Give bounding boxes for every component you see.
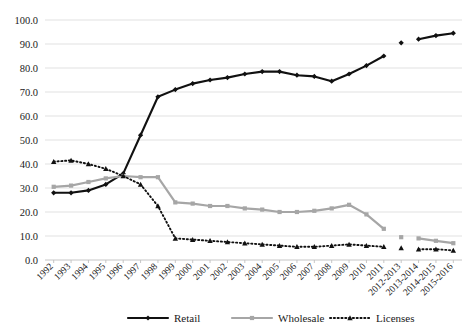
series-group [51,31,456,253]
data-point [155,203,160,208]
data-point [51,190,56,195]
x-axis-tick-label: 1997 [121,261,142,282]
data-point [86,188,91,193]
x-axis-tick-label: 2008 [313,261,334,282]
data-point [364,212,368,216]
x-axis-tick-label: 2004 [243,261,264,282]
data-point [451,241,455,245]
data-point [190,81,195,86]
series-licenses [51,158,456,253]
data-point [433,33,438,38]
data-point [243,206,247,210]
data-point [329,243,334,248]
data-point [399,40,404,45]
data-point [104,176,108,180]
series-line [54,56,384,193]
data-point [225,204,229,208]
data-point [434,239,438,243]
data-point [207,77,212,82]
x-axis-labels-group: 1992199319941995199619971998199920002001… [35,260,455,298]
data-point [294,244,299,249]
legend-label: Wholesale [278,312,325,324]
data-point [260,208,264,212]
x-axis-tick-label: 1996 [104,261,125,282]
x-axis-tick-label: 2002 [208,261,229,282]
data-point [294,73,299,78]
x-axis-tick-label: 1998 [139,261,160,282]
y-axis-tick-label: 80.0 [20,63,38,74]
x-axis-tick-label: 1999 [156,261,177,282]
chart-canvas: 0.010.020.030.040.050.060.070.080.090.01… [0,0,467,333]
data-point [382,227,386,231]
data-point [207,238,212,243]
legend-item-retail[interactable]: Retail [128,312,200,324]
data-point [277,69,282,74]
legend-label: Retail [174,312,200,324]
data-point [399,235,403,239]
data-point [173,200,177,204]
y-axis-tick-label: 60.0 [20,111,38,122]
x-axis-tick-label: 2001 [191,261,212,282]
x-axis-tick-label: 2010 [347,261,368,282]
series-line [54,176,384,229]
y-axis-tick-label: 100.0 [14,15,38,26]
series-retail [51,31,456,196]
data-point [277,210,281,214]
data-point [225,75,230,80]
data-point [312,74,317,79]
legend-item-wholesale[interactable]: Wholesale [232,312,325,324]
data-point [295,210,299,214]
y-axis-labels-group: 0.010.020.030.040.050.060.070.080.090.01… [14,15,38,266]
data-point [156,175,160,179]
data-point [191,202,195,206]
data-point [260,69,265,74]
y-axis-tick-label: 30.0 [20,183,38,194]
x-axis-tick-label: 2006 [278,261,299,282]
data-point [451,31,456,36]
data-point [138,175,142,179]
data-point [86,180,90,184]
gridlines-group [45,20,462,260]
y-axis-tick-label: 0.0 [25,255,38,266]
data-point [69,184,73,188]
x-axis-tick-label: 1993 [52,261,73,282]
y-axis-tick-label: 70.0 [20,87,38,98]
x-axis-tick-label: 2009 [330,261,351,282]
data-point [416,37,421,42]
data-point [242,71,247,76]
data-point [347,203,351,207]
x-axis-tick-label: 1995 [87,261,108,282]
y-axis-tick-label: 20.0 [20,207,38,218]
data-point [208,204,212,208]
data-point [68,190,73,195]
data-point [398,245,403,250]
chart-legend: RetailWholesaleLicenses [128,312,414,324]
legend-item-licenses[interactable]: Licenses [330,312,414,324]
data-point [416,236,420,240]
legend-swatch-marker [145,315,150,320]
y-axis-tick-label: 10.0 [20,231,38,242]
x-axis-tick-label: 2000 [174,261,195,282]
line-chart: 0.010.020.030.040.050.060.070.080.090.01… [0,0,467,333]
y-axis-tick-label: 50.0 [20,135,38,146]
series-wholesale [52,174,456,245]
y-axis-tick-label: 40.0 [20,159,38,170]
legend-swatch-marker [250,316,254,320]
data-point [330,206,334,210]
x-axis-tick-label: 2005 [260,261,281,282]
y-axis-tick-label: 90.0 [20,39,38,50]
series-line [54,160,384,246]
data-point [52,185,56,189]
data-point [312,209,316,213]
x-axis-tick-label: 2003 [226,261,247,282]
x-axis-tick-label: 2007 [295,261,316,282]
x-axis-tick-label: 1994 [69,261,90,282]
legend-label: Licenses [376,312,414,324]
data-point [451,248,456,253]
